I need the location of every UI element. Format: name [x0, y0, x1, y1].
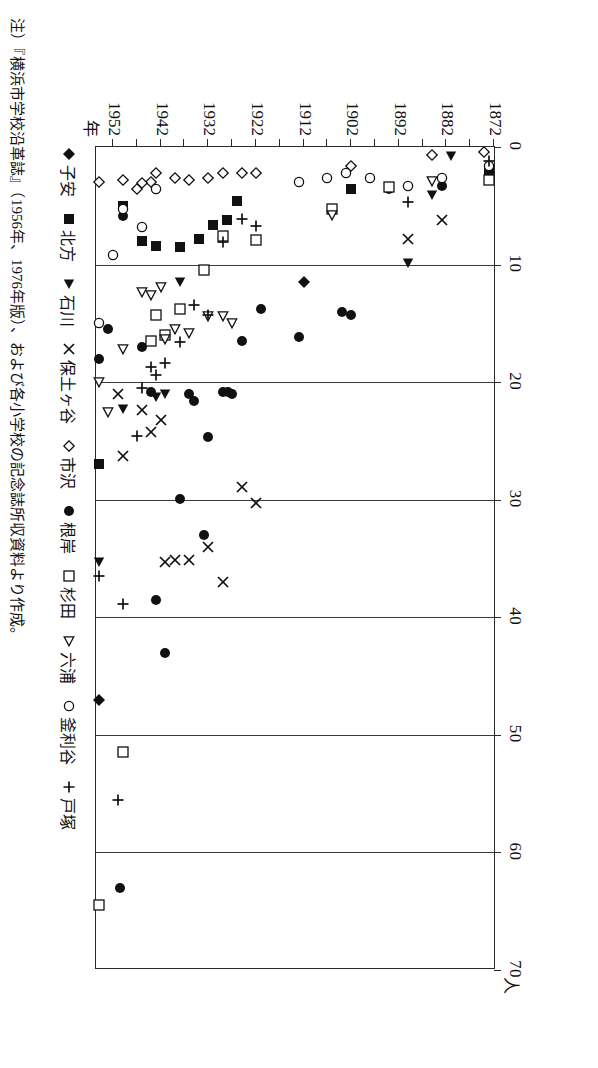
data-point: [217, 576, 229, 588]
legend-item[interactable]: 子安: [57, 146, 81, 197]
data-point: [93, 317, 105, 329]
data-point: [231, 195, 243, 207]
data-point: [293, 331, 305, 343]
legend-item[interactable]: 釜利谷: [57, 698, 81, 765]
data-point: [174, 493, 186, 505]
legend-item[interactable]: 北方: [57, 211, 81, 262]
cross-x-icon: [61, 341, 77, 357]
data-point: [93, 556, 105, 568]
legend-item-label: 保土ヶ谷: [57, 360, 81, 424]
legend-item[interactable]: 六浦: [57, 633, 81, 684]
legend-item-label: 北方: [57, 230, 81, 262]
data-point: [236, 213, 248, 225]
gridline: [96, 500, 494, 501]
data-point: [107, 249, 119, 261]
filled-right-triangle-icon: [61, 276, 77, 292]
data-point: [321, 172, 333, 184]
data-point: [145, 335, 157, 347]
data-point: [202, 541, 214, 553]
data-point: [340, 167, 352, 179]
data-point: [131, 183, 143, 195]
data-point: [93, 353, 105, 365]
year-axis-tick: [469, 139, 470, 147]
legend-item[interactable]: 市沢: [57, 438, 81, 489]
data-point: [383, 181, 395, 193]
year-axis-tick: [422, 139, 423, 147]
data-point: [159, 333, 171, 345]
data-point: [483, 155, 495, 167]
data-point: [183, 388, 195, 400]
legend-item[interactable]: 石川: [57, 276, 81, 327]
value-axis-tick: [494, 265, 501, 266]
data-point: [402, 180, 414, 192]
data-point: [174, 276, 186, 288]
data-point: [145, 361, 157, 373]
value-axis-tick: [494, 970, 501, 971]
data-point: [136, 286, 148, 298]
data-point: [221, 214, 233, 226]
value-axis-tick-label: 30: [505, 490, 525, 508]
year-axis-tick: [231, 139, 232, 147]
data-point: [117, 403, 129, 415]
data-point: [150, 594, 162, 606]
data-point: [236, 167, 248, 179]
gridline: [96, 382, 494, 383]
legend-item[interactable]: 戸塚: [57, 779, 81, 830]
data-point: [217, 167, 229, 179]
data-point: [202, 172, 214, 184]
legend-item-label: 市沢: [57, 457, 81, 489]
chart-legend: 子安北方石川保土ヶ谷市沢根岸杉田六浦釜利谷戸塚: [57, 146, 81, 844]
data-point: [183, 174, 195, 186]
data-point: [93, 376, 105, 388]
data-point: [345, 183, 357, 195]
data-point: [336, 306, 348, 318]
year-axis-tick-label: 1952: [104, 66, 124, 136]
data-point: [217, 386, 229, 398]
year-axis-tick: [255, 139, 256, 147]
data-point: [483, 174, 495, 186]
legend-item-label: 根岸: [57, 522, 81, 554]
data-point: [117, 203, 129, 215]
data-point: [236, 481, 248, 493]
legend-item[interactable]: 根岸: [57, 503, 81, 554]
value-axis-tick-label: 50: [505, 725, 525, 743]
open-square-icon: [61, 568, 77, 584]
data-point: [198, 264, 210, 276]
data-point: [117, 343, 129, 355]
open-circle-icon: [61, 698, 77, 714]
data-point: [436, 214, 448, 226]
value-axis-tick-label: 10: [505, 255, 525, 273]
legend-item[interactable]: 杉田: [57, 568, 81, 619]
data-point: [436, 172, 448, 184]
source-note-text: 注）『横浜市学校沿革誌』（1956年、1976年版）、および各小学校の記念誌所収…: [9, 0, 25, 642]
data-point: [174, 241, 186, 253]
legend-item-label: 六浦: [57, 652, 81, 684]
data-point: [202, 431, 214, 443]
legend-item[interactable]: 保土ヶ谷: [57, 341, 81, 424]
year-axis-tick: [303, 139, 304, 147]
value-axis-tick-label: 20: [505, 372, 525, 390]
gridline: [96, 735, 494, 736]
data-point: [155, 414, 167, 426]
value-axis-unit-label: 人: [500, 977, 525, 994]
year-axis-unit-label: 年: [80, 120, 105, 137]
source-note: 注）『横浜市学校沿革誌』（1956年、1976年版）、および各小学校の記念誌所収…: [0, 0, 34, 1068]
data-point: [174, 303, 186, 315]
chart-stage: 010203040506070人 18721882189219021912192…: [39, 54, 559, 1014]
data-point: [426, 149, 438, 161]
data-point: [117, 598, 129, 610]
value-axis-tick-label: 60: [505, 842, 525, 860]
data-point: [150, 240, 162, 252]
data-point: [150, 309, 162, 321]
value-axis-tick-label: 70: [505, 960, 525, 978]
value-axis-tick: [494, 735, 501, 736]
data-point: [93, 694, 105, 706]
data-point: [236, 335, 248, 347]
data-point: [402, 233, 414, 245]
filled-square-icon: [61, 211, 77, 227]
year-axis-tick-label: 1872: [485, 66, 505, 136]
year-axis-tick-label: 1882: [437, 66, 457, 136]
data-point: [93, 899, 105, 911]
data-point: [183, 554, 195, 566]
data-point: [114, 882, 126, 894]
